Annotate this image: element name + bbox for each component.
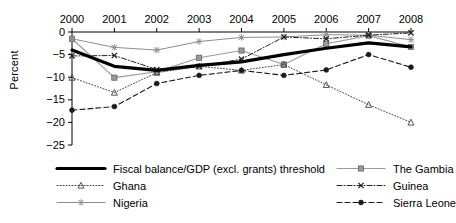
legend-line-sample-4 xyxy=(55,194,107,211)
legend-line-sample-2 xyxy=(55,177,107,194)
y-tick-label: −25 xyxy=(46,139,65,151)
legend-swatch-threshold xyxy=(55,160,107,177)
legend-label-nigeria: Nigeria xyxy=(107,197,148,209)
legend-line-sample-0 xyxy=(55,160,107,177)
legend-item-sierra-leone[interactable]: Sierra Leone xyxy=(335,194,456,211)
legend-label-guinea: Guinea xyxy=(387,180,428,192)
legend-item-ghana[interactable]: Ghana xyxy=(55,177,325,194)
legend-line-sample-5 xyxy=(335,194,387,211)
x-tick-label: 2000 xyxy=(60,13,84,25)
legend-label-threshold: Fiscal balance/GDP (excl. grants) thresh… xyxy=(107,163,325,175)
y-tick-label: −5 xyxy=(52,48,65,60)
legend-item-guinea[interactable]: Guinea xyxy=(335,177,456,194)
legend-swatch-ghana xyxy=(55,177,107,194)
legend-item-nigeria[interactable]: Nigeria xyxy=(55,194,325,211)
x-tick-label: 2007 xyxy=(356,13,380,25)
legend-item-the-gambia[interactable]: The Gambia xyxy=(335,160,456,177)
legend-label-sierra-leone: Sierra Leone xyxy=(387,197,456,209)
chart-legend: Fiscal balance/GDP (excl. grants) thresh… xyxy=(0,160,433,223)
x-tick-label: 2004 xyxy=(229,13,253,25)
y-tick-label: −15 xyxy=(46,93,65,105)
x-tick-label: 2005 xyxy=(272,13,296,25)
legend-swatch-nigeria xyxy=(55,194,107,211)
x-tick-label: 2002 xyxy=(145,13,169,25)
y-tick-label: −10 xyxy=(46,71,65,83)
x-tick-label: 2001 xyxy=(102,13,126,25)
x-tick-label: 2008 xyxy=(399,13,423,25)
plot-area: 0−5−10−15−20−252000200120022003200420052… xyxy=(0,0,433,160)
x-tick-label: 2006 xyxy=(314,13,338,25)
legend-column-right: The Gambia Guinea Sierra Leone xyxy=(335,160,456,211)
legend-line-sample-1 xyxy=(335,160,387,177)
legend-line-sample-3 xyxy=(335,177,387,194)
legend-column-left: Fiscal balance/GDP (excl. grants) thresh… xyxy=(55,160,325,211)
legend-item-threshold[interactable]: Fiscal balance/GDP (excl. grants) thresh… xyxy=(55,160,325,177)
legend-swatch-the-gambia xyxy=(335,160,387,177)
y-tick-label: −20 xyxy=(46,116,65,128)
legend-label-ghana: Ghana xyxy=(107,180,146,192)
legend-label-the-gambia: The Gambia xyxy=(387,163,454,175)
legend-swatch-guinea xyxy=(335,177,387,194)
legend-swatch-sierra-leone xyxy=(335,194,387,211)
y-tick-label: 0 xyxy=(59,26,65,38)
x-tick-label: 2003 xyxy=(187,13,211,25)
